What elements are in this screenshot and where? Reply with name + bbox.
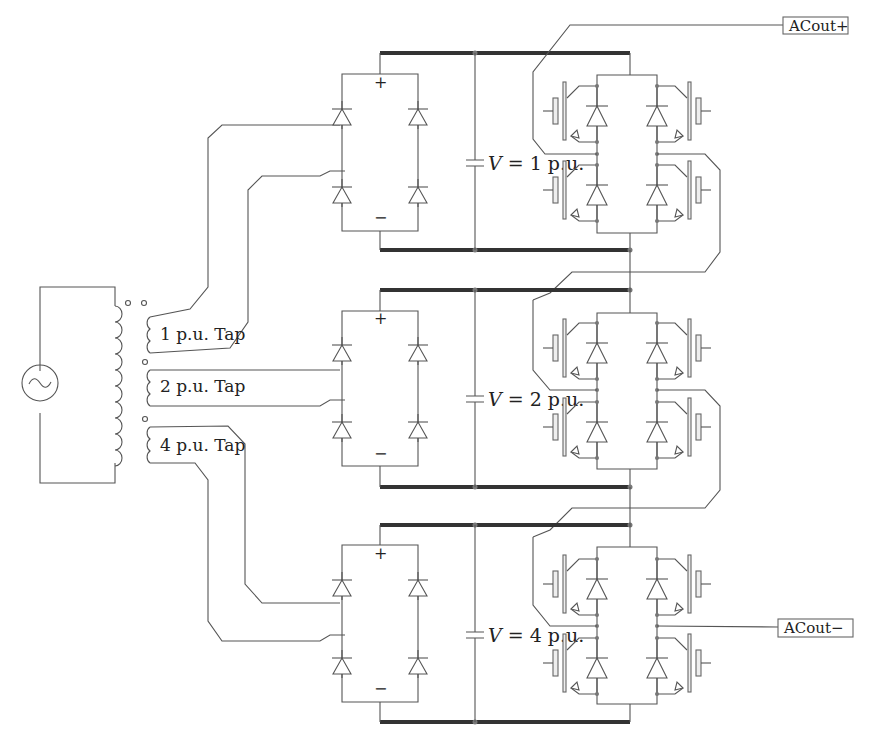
stage-2: + − V = 2 p.u. [332,248,720,538]
svg-text:V = 2 p.u.: V = 2 p.u. [488,388,584,410]
negative-terminal-label: − [374,444,387,463]
transformer-primary-winding [115,301,131,467]
sine-wave-icon [29,379,51,388]
svg-text:V = 1 p.u.: V = 1 p.u. [488,152,584,174]
ac-source [22,287,115,483]
dc-link-capacitor: V = 1 p.u. [466,53,584,250]
dc-link-capacitor: V = 4 p.u. [466,525,584,722]
polarity-dot-primary [126,301,131,306]
diode-bridge-rectifier: + − [332,53,428,250]
stage-3: + − V = 4 p.u. [332,485,778,725]
dc-link-capacitor: V = 2 p.u. [466,290,584,487]
diode-bridge-rectifier: + − [332,290,428,487]
capacitor-voltage-label: = 1 p.u. [502,152,585,174]
negative-terminal-label: − [374,208,387,227]
igbt-h-bridge [533,487,778,722]
negative-terminal-label: − [374,679,387,698]
diode-bridge-rectifier: + − [332,525,428,722]
positive-terminal-label: + [374,309,387,328]
tap-1pu-label: 1 p.u. Tap [160,324,245,344]
capacitor-voltage-label: = 4 p.u. [502,624,585,646]
tap-2pu-label: 2 p.u. Tap [160,376,245,396]
capacitor-voltage-label: = 2 p.u. [502,388,585,410]
svg-text:V = 4 p.u.: V = 4 p.u. [488,624,584,646]
positive-terminal-label: + [374,73,387,92]
stage-1: + − V = 1 p.u. [332,25,783,300]
circuit-diagram: 1 p.u. Tap 2 p.u. Tap 4 p.u. Tap + − [0,0,880,747]
tap-4pu-label: 4 p.u. Tap [160,435,245,455]
tap-4pu: 4 p.u. Tap [143,417,346,642]
output-terminal-negative: ACout− [778,619,853,637]
tap-1pu: 1 p.u. Tap [142,125,346,353]
positive-terminal-label: + [374,544,387,563]
acout-plus-label: ACout+ [788,17,849,35]
acout-minus-label: ACout− [783,619,844,637]
tap-2pu: 2 p.u. Tap [143,360,346,407]
output-terminal-positive: ACout+ [783,17,849,35]
